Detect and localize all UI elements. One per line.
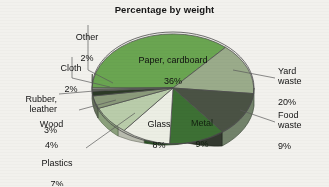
slice-label-cloth-name: Cloth — [60, 63, 81, 73]
slice-label-plastics-pct: 7% — [50, 179, 63, 187]
slice-label-yard-waste-name: Yard waste — [278, 66, 302, 87]
slice-label-food-waste-name: Food waste — [278, 110, 302, 131]
slice-label-wood: Wood 4% — [24, 108, 79, 150]
slice-label-plastics: Plastics 7% — [28, 147, 86, 186]
slice-label-metal-name: Metal — [191, 118, 213, 128]
slice-label-paper-cardboard-pct: 36% — [164, 76, 182, 86]
slice-label-wood-name: Wood — [40, 119, 63, 129]
slice-label-food-waste: Food waste 9% — [278, 99, 328, 152]
slice-label-cloth-pct: 2% — [64, 84, 77, 94]
slice-label-glass-name: Glass — [147, 119, 170, 129]
slice-label-glass: Glass 8% — [139, 108, 179, 150]
slice-label-metal: Metal 9% — [182, 107, 222, 149]
slice-label-paper-cardboard: Paper, cardboard 36% — [120, 44, 226, 86]
slice-label-metal-pct: 9% — [195, 139, 208, 149]
slice-label-other-name: Other — [76, 32, 99, 42]
slice-label-glass-pct: 8% — [152, 140, 165, 150]
slice-label-food-waste-pct: 9% — [278, 141, 291, 151]
slice-label-plastics-name: Plastics — [41, 158, 72, 168]
chart-canvas: Percentage by weight — [0, 0, 329, 186]
slice-label-paper-cardboard-name: Paper, cardboard — [138, 55, 207, 65]
